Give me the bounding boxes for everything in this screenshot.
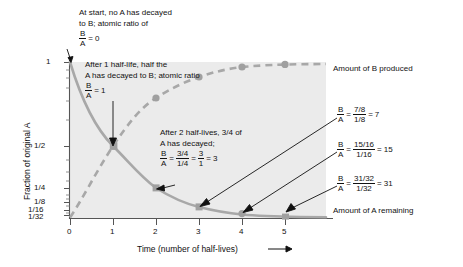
fraction-denominator: 1/16 <box>353 150 375 159</box>
annotation-five-halflives: B A = 31/32 1/32 = 31 <box>337 174 393 193</box>
ratio-b-label: B <box>337 175 344 184</box>
x-tick-3: 3 <box>196 228 200 236</box>
annotation-one-halflife-line2: A has decayed to B; atomic ratio <box>85 71 200 82</box>
annotation-one-halflife-ratio: B A <box>85 82 92 100</box>
annotation-two-halflives-equals3: = <box>204 154 213 165</box>
ratio-b-label: B <box>337 106 344 115</box>
annotation-five-halflives-equals1: = <box>344 179 353 190</box>
ratio-b-label: B <box>337 141 344 150</box>
ratio-a-label: A <box>85 91 92 100</box>
x-tick-5: 5 <box>282 228 286 236</box>
annotation-start-line1: At start, no A has decayed <box>79 8 172 19</box>
annotation-three-halflives: B A = 7/8 1/8 = 7 <box>337 105 379 124</box>
ratio-b-label: B <box>160 150 167 159</box>
y-axis-title: Fraction of original A <box>22 123 32 200</box>
x-tick-0: 0 <box>67 228 71 236</box>
curve-label-b-produced: Amount of B produced <box>333 64 413 74</box>
annotation-two-halflives-equals2: = <box>189 154 198 165</box>
annotation-one-halflife-line1: After 1 half-life, half the <box>85 60 200 71</box>
annotation-two-halflives-line1: After 2 half-lives, 3/4 of <box>160 128 242 139</box>
annotation-one-halflife-value: 1 <box>101 86 105 97</box>
annotation-start-ratio: B A <box>79 30 86 48</box>
ratio-b-label: B <box>85 82 92 91</box>
arrow-start-annotation <box>67 49 73 63</box>
ratio-a-label: A <box>160 159 167 168</box>
y-tick-1: 1 <box>46 58 50 66</box>
annotation-four-halflives-equals1: = <box>344 145 353 156</box>
x-axis-title: Time (number of half-lives) <box>137 244 238 254</box>
curve-label-a-remaining: Amount of A remaining <box>333 206 414 216</box>
annotation-four-halflives: B A = 15/16 1/16 = 15 <box>337 140 393 159</box>
x-axis-title-arrow <box>268 246 292 252</box>
fraction-numerator: 15/16 <box>353 141 375 150</box>
annotation-one-halflife-equals: = <box>92 86 101 97</box>
annotation-start: At start, no A has decayed to B; atomic … <box>79 8 172 48</box>
half-life-decay-chart: 1 1/2 1/4 1/8 1/16 1/32 0 1 2 3 4 5 Frac… <box>0 0 463 267</box>
fraction-denominator: 1/8 <box>353 115 366 124</box>
y-tick-1-4: 1/4 <box>34 184 45 192</box>
annotation-four-halflives-equals2: = <box>375 145 384 156</box>
fraction-denominator: 1/4 <box>176 159 189 168</box>
annotation-start-equals: = <box>86 34 95 45</box>
x-tick-4: 4 <box>239 228 243 236</box>
ratio-b-label: B <box>79 30 86 39</box>
annotation-five-halflives-fraction: 31/32 1/32 <box>353 175 375 193</box>
annotation-two-halflives-fraction1: 3/4 1/4 <box>176 150 189 168</box>
annotation-one-halflife: After 1 half-life, half the A has decaye… <box>85 60 200 100</box>
fraction-numerator: 3/4 <box>176 150 189 159</box>
annotation-start-line2: to B; atomic ratio of <box>79 19 172 30</box>
annotation-three-halflives-equals2: = <box>366 110 375 121</box>
annotation-five-halflives-ratio: B A <box>337 175 344 193</box>
x-tick-1: 1 <box>110 228 114 236</box>
annotation-five-halflives-equals2: = <box>375 179 384 190</box>
ratio-a-label: A <box>337 115 344 124</box>
fraction-numerator: 31/32 <box>353 175 375 184</box>
annotation-two-halflives-equals1: = <box>167 154 176 165</box>
annotation-two-halflives-ratio: B A <box>160 150 167 168</box>
ratio-a-label: A <box>79 39 86 48</box>
y-tick-1-32: 1/32 <box>28 213 44 221</box>
ratio-a-label: A <box>337 184 344 193</box>
fraction-numerator: 7/8 <box>353 106 366 115</box>
annotation-two-halflives-result: 3 <box>213 154 217 165</box>
annotation-three-halflives-fraction: 7/8 1/8 <box>353 106 366 124</box>
fraction-denominator: 1/32 <box>353 184 375 193</box>
annotation-five-halflives-result: 31 <box>384 179 393 190</box>
annotation-four-halflives-result: 15 <box>384 145 393 156</box>
annotation-three-halflives-equals1: = <box>344 110 353 121</box>
annotation-two-halflives: After 2 half-lives, 3/4 of A has decayed… <box>160 128 242 168</box>
annotation-four-halflives-ratio: B A <box>337 141 344 159</box>
annotation-three-halflives-result: 7 <box>375 110 379 121</box>
x-tick-2: 2 <box>153 228 157 236</box>
y-tick-1-2: 1/2 <box>34 142 45 150</box>
annotation-three-halflives-ratio: B A <box>337 106 344 124</box>
annotation-start-value: 0 <box>95 34 99 45</box>
annotation-four-halflives-fraction: 15/16 1/16 <box>353 141 375 159</box>
annotation-two-halflives-line2: A has decayed; <box>160 139 242 150</box>
ratio-a-label: A <box>337 150 344 159</box>
